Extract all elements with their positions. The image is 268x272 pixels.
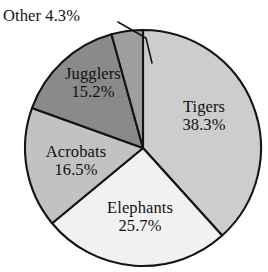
slice-label-tigers-value: 38.3%: [163, 116, 245, 134]
slice-label-other-text: Other 4.3%: [3, 6, 80, 25]
slice-label-other: Other 4.3%: [3, 7, 131, 25]
pie-chart: Tigers 38.3% Elephants 25.7% Acrobats 16…: [0, 0, 268, 272]
slice-label-acrobats-name: Acrobats: [26, 143, 126, 161]
slice-label-jugglers: Jugglers 15.2%: [46, 65, 140, 101]
slice-label-elephants: Elephants 25.7%: [88, 199, 192, 235]
slice-label-acrobats: Acrobats 16.5%: [26, 143, 126, 179]
slice-label-jugglers-name: Jugglers: [46, 65, 140, 83]
slice-label-tigers: Tigers 38.3%: [163, 98, 245, 134]
slice-label-elephants-value: 25.7%: [88, 217, 192, 235]
slice-label-tigers-name: Tigers: [163, 98, 245, 116]
slice-label-jugglers-value: 15.2%: [46, 83, 140, 101]
slice-label-acrobats-value: 16.5%: [26, 161, 126, 179]
slice-label-elephants-name: Elephants: [88, 199, 192, 217]
